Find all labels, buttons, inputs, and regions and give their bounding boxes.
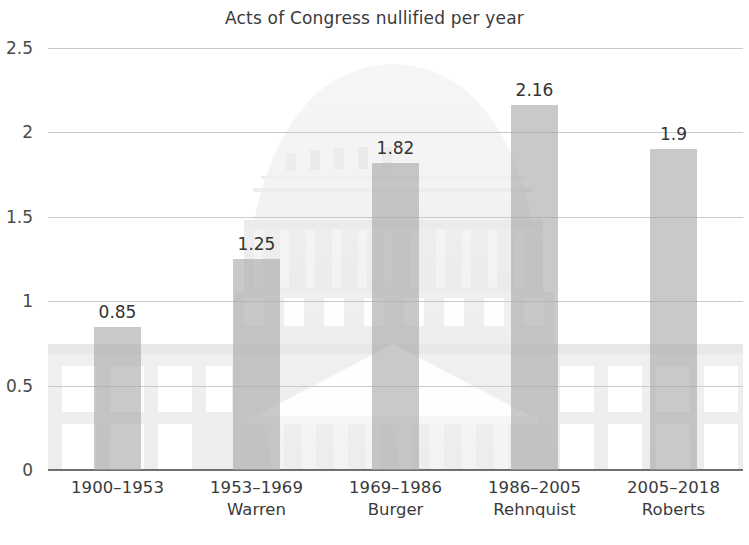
x-tick-1: 1900–1953 (71, 478, 164, 497)
x-tick-range: 1986–2005 (488, 478, 581, 497)
x-tick-range: 2005–2018 (627, 478, 720, 497)
chart-title: Acts of Congress nullified per year (0, 8, 749, 28)
bar-value-label: 1.25 (238, 234, 276, 254)
y-tick-label: 0.5 (0, 376, 33, 396)
x-tick-2: 1953–1969Warren (210, 478, 303, 519)
x-tick-court-name: Burger (349, 500, 442, 519)
gridline-2.5 (48, 48, 743, 49)
bar[interactable] (372, 163, 419, 470)
x-tick-range: 1969–1986 (349, 478, 442, 497)
y-tick-label: 0 (0, 460, 33, 480)
y-tick-label: 1.5 (0, 207, 33, 227)
bar[interactable] (233, 259, 280, 470)
y-tick-label: 2.5 (0, 38, 33, 58)
plot-area: 00.511.522.5 0.851.251.822.161.9 (48, 48, 743, 470)
x-axis-labels: 1900–19531953–1969Warren1969–1986Burger1… (48, 478, 743, 540)
x-tick-court-name: Warren (210, 500, 303, 519)
bar-value-label: 1.82 (377, 138, 415, 158)
bar[interactable] (94, 327, 141, 470)
x-tick-range: 1953–1969 (210, 478, 303, 497)
bar-value-label: 2.16 (516, 80, 554, 100)
x-tick-4: 1986–2005Rehnquist (488, 478, 581, 519)
x-tick-court-name: Roberts (627, 500, 720, 519)
y-tick-label: 2 (0, 122, 33, 142)
y-tick-label: 1 (0, 291, 33, 311)
bar-value-label: 0.85 (99, 302, 137, 322)
x-tick-5: 2005–2018Roberts (627, 478, 720, 519)
x-tick-court-name: Rehnquist (488, 500, 581, 519)
x-tick-range: 1900–1953 (71, 478, 164, 497)
bar[interactable] (650, 149, 697, 470)
x-tick-3: 1969–1986Burger (349, 478, 442, 519)
chart-container: Acts of Congress nullified per year (0, 0, 749, 545)
bar-value-label: 1.9 (660, 124, 687, 144)
gridline-2 (48, 132, 743, 133)
bar[interactable] (511, 105, 558, 470)
